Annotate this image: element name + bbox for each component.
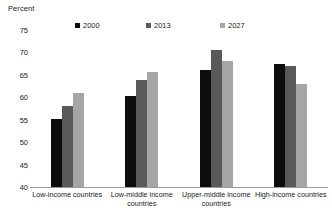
y-axis-tick-label: 75	[2, 26, 28, 35]
bar-2000[interactable]	[274, 64, 285, 187]
bar-2000[interactable]	[51, 119, 62, 187]
y-axis-tick-label: 60	[2, 93, 28, 102]
bar-group	[51, 30, 84, 187]
x-axis-baseline	[30, 187, 328, 188]
bar-group	[125, 30, 158, 187]
bar-2000[interactable]	[200, 70, 211, 187]
legend-item-2000[interactable]: 2000	[75, 22, 100, 30]
legend-label: 2000	[83, 22, 100, 30]
bar-2027[interactable]	[147, 72, 158, 187]
legend-swatch-icon	[75, 23, 80, 28]
y-axis-tick-label: 40	[2, 183, 28, 192]
bar-group	[200, 30, 233, 187]
bar-2013[interactable]	[285, 66, 296, 187]
y-axis-tick-label: 45	[2, 160, 28, 169]
x-axis-category-label: Low-middle income countries	[105, 190, 180, 208]
bar-2027[interactable]	[222, 61, 233, 187]
y-axis-tick-label: 70	[2, 48, 28, 57]
legend-swatch-icon	[220, 23, 225, 28]
x-axis-category-label: Upper-middle income countries	[179, 190, 254, 208]
bar-2000[interactable]	[125, 96, 136, 187]
y-axis-tick-label: 65	[2, 70, 28, 79]
x-axis-category-label: High-income countries	[254, 190, 329, 199]
legend-item-2027[interactable]: 2027	[220, 22, 245, 30]
y-axis-ticks: 7570656055504540	[0, 0, 28, 217]
x-axis-category-label: Low-income countries	[30, 190, 105, 199]
y-axis-tick-label: 55	[2, 115, 28, 124]
bar-chart: Percent 200020132027 7570656055504540 Lo…	[0, 0, 332, 217]
bar-2027[interactable]	[296, 84, 307, 187]
bar-2013[interactable]	[211, 50, 222, 187]
plot-area	[30, 30, 328, 187]
bar-group	[274, 30, 307, 187]
legend-item-2013[interactable]: 2013	[146, 22, 171, 30]
legend-label: 2013	[154, 22, 171, 30]
y-axis-tick-label: 50	[2, 138, 28, 147]
bar-2013[interactable]	[62, 106, 73, 187]
bar-2027[interactable]	[73, 93, 84, 187]
bar-2013[interactable]	[136, 80, 147, 187]
legend-swatch-icon	[146, 23, 151, 28]
legend-label: 2027	[228, 22, 245, 30]
